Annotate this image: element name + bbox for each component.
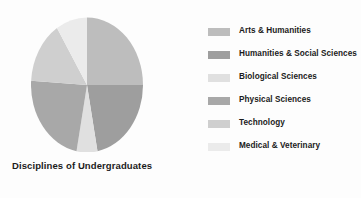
pie-slice[interactable] <box>87 18 143 86</box>
legend-swatch-icon <box>208 74 230 82</box>
legend-item-label: Physical Sciences <box>239 96 311 104</box>
pie-slice-group <box>31 18 143 153</box>
legend-item-biological-sciences[interactable]: Biological Sciences <box>208 66 358 89</box>
legend-swatch-icon <box>208 143 230 151</box>
legend-item-label: Biological Sciences <box>239 73 317 81</box>
legend-swatch-icon <box>208 97 230 105</box>
chart-title: Disciplines of Undergraduates <box>12 160 152 171</box>
legend-swatch-icon <box>208 51 230 59</box>
pie-chart <box>31 17 143 152</box>
legend-item-label: Humanities & Social Sciences <box>239 50 357 58</box>
legend: Arts & Humanities Humanities & Social Sc… <box>208 20 358 158</box>
legend-item-medical-veterinary[interactable]: Medical & Veterinary <box>208 135 358 158</box>
legend-item-technology[interactable]: Technology <box>208 112 358 135</box>
plot-area: Disciplines of Undergraduates <box>0 0 200 198</box>
legend-swatch-icon <box>208 28 230 36</box>
legend-item-arts-humanities[interactable]: Arts & Humanities <box>208 20 358 43</box>
legend-item-physical-sciences[interactable]: Physical Sciences <box>208 89 358 112</box>
pie-chart-figure: Disciplines of Undergraduates Arts & Hum… <box>0 0 361 198</box>
legend-item-label: Technology <box>239 119 285 127</box>
legend-item-humanities-social-sciences[interactable]: Humanities & Social Sciences <box>208 43 358 66</box>
legend-item-label: Arts & Humanities <box>239 27 311 35</box>
pie-svg <box>31 17 143 152</box>
legend-item-label: Medical & Veterinary <box>239 142 320 150</box>
legend-swatch-icon <box>208 120 230 128</box>
